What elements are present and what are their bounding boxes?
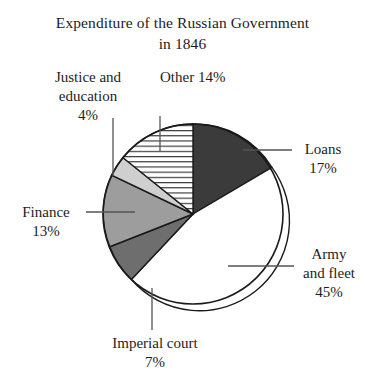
pie-label-other-line-1: Other 14% <box>160 68 225 87</box>
pie-label-imperial-line-1: Imperial court <box>96 334 214 353</box>
pie-label-justice-line-1: Justice and <box>36 68 140 87</box>
pie-chart-figure: Expenditure of the Russian Government in… <box>0 0 365 382</box>
pie-label-justice-value: 4% <box>36 106 140 125</box>
pie-label-finance-line-1: Finance <box>8 203 84 222</box>
pie-label-loans-value: 17% <box>294 159 352 178</box>
pie-label-imperial-value: 7% <box>96 353 214 372</box>
pie-label-army-line-1: Army <box>296 245 362 264</box>
pie-label-other: Other 14% <box>160 68 225 87</box>
pie-label-imperial-court: Imperial court 7% <box>96 334 214 372</box>
pie-label-army-value: 45% <box>296 283 362 302</box>
pie-label-finance: Finance 13% <box>8 203 84 241</box>
pie-chart-graphic <box>0 0 365 382</box>
pie-label-justice-line-2: education <box>36 87 140 106</box>
pie-label-loans: Loans 17% <box>294 140 352 178</box>
pie-label-loans-line-1: Loans <box>294 140 352 159</box>
pie-label-justice-and-education: Justice and education 4% <box>36 68 140 125</box>
pie-label-army-and-fleet: Army and fleet 45% <box>296 245 362 302</box>
pie-label-finance-value: 13% <box>8 222 84 241</box>
pie-label-army-line-2: and fleet <box>296 264 362 283</box>
